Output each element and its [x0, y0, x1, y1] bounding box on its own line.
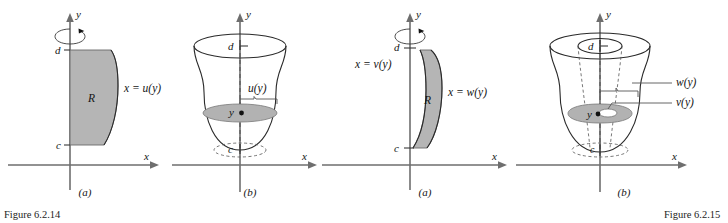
- figure-6-2-15-panel-a: y x d c x = v(y) x = w(y) R: [330, 0, 520, 200]
- figure-sheet: y x d c R x = u(y) (a): [0, 0, 728, 223]
- tick-label-d: d: [55, 44, 61, 56]
- figure-6-2-15: y x d c x = v(y) x = w(y) R: [330, 0, 728, 223]
- x-axis-arrowhead: [308, 161, 317, 169]
- washer-inner-hole: [599, 109, 617, 117]
- y-axis-label: y: [415, 8, 421, 20]
- radius-label-u: u(y): [248, 82, 267, 95]
- tick-label-c: c: [394, 142, 399, 154]
- x-axis-label: x: [671, 150, 677, 162]
- solid-diagram-vw: y x y: [520, 0, 728, 200]
- y-axis-label: y: [605, 8, 611, 20]
- figure-6-2-15-panel-b: y x y: [520, 0, 728, 200]
- disk-center-point: [239, 111, 244, 116]
- x-axis-label: x: [491, 150, 497, 162]
- tick-label-d: d: [588, 40, 594, 52]
- tick-label-d: d: [394, 41, 400, 53]
- panel-caption-a: (a): [0, 186, 170, 198]
- figure-6-2-14-panel-a: y x d c R x = u(y) (a): [0, 0, 170, 200]
- figure-caption-6-2-14: Figure 6.2.14: [4, 209, 60, 220]
- tick-label-c: c: [228, 143, 233, 155]
- x-axis-arrowhead: [678, 161, 687, 169]
- figure-6-2-14: y x d c R x = u(y) (a): [0, 0, 330, 223]
- solid-diagram-u: y x y u(y) d: [170, 0, 330, 200]
- panel-caption-b: (b): [520, 186, 728, 198]
- y-axis-arrowhead: [406, 13, 414, 22]
- inner-core-right-dashed: [610, 46, 622, 148]
- leader-brace-w: [600, 83, 672, 97]
- panel-caption-a: (a): [330, 186, 520, 198]
- region-diagram-vw: y x d c x = v(y) x = w(y) R: [330, 0, 520, 200]
- figure-caption-6-2-15: Figure 6.2.15: [664, 209, 720, 220]
- height-label-y: y: [586, 108, 592, 120]
- outer-radius-label-w: w(y): [676, 76, 697, 89]
- y-axis-label: y: [245, 8, 251, 20]
- region-label-R: R: [87, 92, 95, 104]
- x-axis-arrowhead: [150, 161, 159, 169]
- tick-label-d: d: [228, 40, 234, 52]
- x-axis-arrowhead: [498, 161, 507, 169]
- tick-label-c: c: [590, 144, 595, 155]
- region-diagram-u: y x d c R x = u(y): [0, 0, 170, 200]
- inner-core-left-dashed: [578, 46, 590, 148]
- region-label-R: R: [423, 94, 431, 106]
- radius-brace-u: [240, 97, 277, 105]
- curve-label-u: x = u(y): [123, 82, 161, 95]
- panel-caption-b: (b): [170, 186, 330, 198]
- x-axis-label: x: [301, 150, 307, 162]
- y-axis-label: y: [75, 8, 81, 20]
- figure-6-2-14-panel-b: y x y u(y) d: [170, 0, 330, 200]
- tick-label-c: c: [56, 139, 61, 151]
- y-axis-arrowhead: [236, 13, 244, 22]
- inner-radius-label-v: v(y): [676, 96, 694, 109]
- curve-label-w: x = w(y): [447, 86, 487, 99]
- curve-label-v: x = v(y): [354, 58, 392, 71]
- y-axis-arrowhead: [66, 13, 74, 22]
- height-label-y: y: [228, 106, 234, 118]
- y-axis-arrowhead: [596, 13, 604, 22]
- washer-center-point: [596, 112, 601, 117]
- x-axis-label: x: [143, 150, 149, 162]
